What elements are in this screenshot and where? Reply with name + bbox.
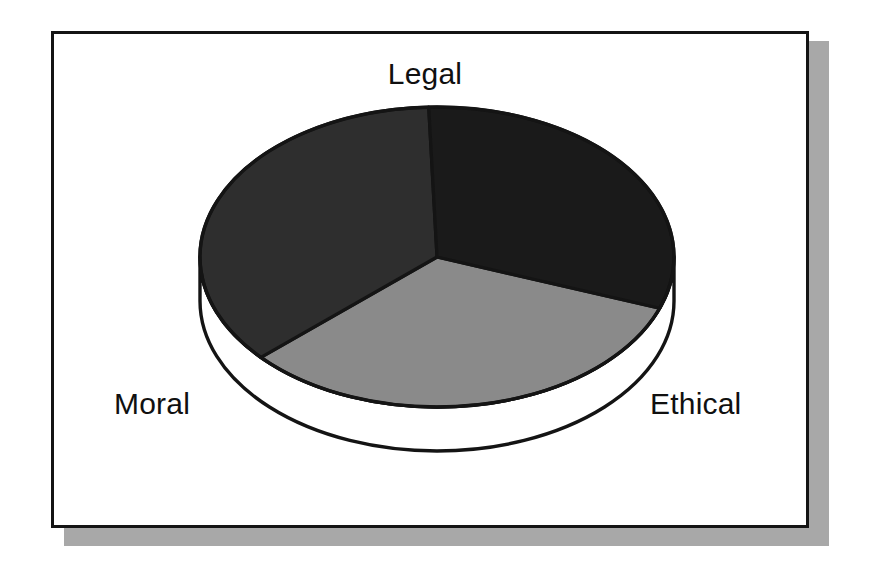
pie-chart-figure: Legal Moral Ethical bbox=[0, 0, 873, 572]
pie-label-legal: Legal bbox=[388, 59, 462, 89]
pie-label-moral: Moral bbox=[114, 389, 190, 419]
pie-label-ethical: Ethical bbox=[650, 389, 741, 419]
